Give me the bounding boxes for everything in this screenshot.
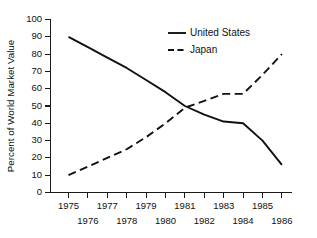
y-tick-label: 20 — [31, 151, 42, 162]
x-tick-label: 1975 — [58, 200, 79, 211]
y-tick-label: 90 — [31, 30, 42, 41]
y-tick-label: 60 — [31, 82, 42, 93]
y-axis-title: Percent of World Market Value — [5, 39, 16, 172]
legend-label-japan: Japan — [190, 44, 217, 55]
y-tick-label: 0 — [37, 186, 42, 197]
y-tick-label: 100 — [26, 13, 42, 24]
y-tick-label: 80 — [31, 48, 42, 59]
x-tick-label: 1983 — [213, 200, 234, 211]
x-axis-ticks — [69, 193, 282, 199]
x-tick-label: 1980 — [155, 215, 176, 226]
y-tick-label: 40 — [31, 117, 42, 128]
legend-label-united-states: United States — [190, 27, 250, 38]
y-tick-label: 50 — [31, 100, 42, 111]
series-line-united-states — [69, 37, 282, 165]
x-tick-label: 1978 — [116, 215, 137, 226]
x-tick-label: 1984 — [233, 215, 254, 226]
y-tick-label: 10 — [31, 169, 42, 180]
x-tick-label: 1979 — [136, 200, 157, 211]
x-axis-labels-lower: 1976 1978 1980 1982 1984 1986 — [77, 215, 292, 226]
x-tick-label: 1982 — [194, 215, 215, 226]
line-chart: Percent of World Market Value 0 10 20 30… — [0, 0, 317, 238]
x-tick-label: 1981 — [174, 200, 195, 211]
x-tick-label: 1976 — [77, 215, 98, 226]
x-tick-label: 1977 — [97, 200, 118, 211]
x-axis-labels-upper: 1975 1977 1979 1981 1983 1985 — [58, 200, 273, 211]
x-tick-label: 1985 — [252, 200, 273, 211]
chart-container: Percent of World Market Value 0 10 20 30… — [0, 0, 317, 238]
y-tick-label: 30 — [31, 134, 42, 145]
y-axis-ticks: 0 10 20 30 40 50 60 70 80 90 100 — [26, 13, 50, 197]
x-tick-label: 1986 — [271, 215, 292, 226]
y-tick-label: 70 — [31, 65, 42, 76]
legend: United States Japan — [168, 27, 250, 55]
series-line-japan — [69, 54, 282, 175]
